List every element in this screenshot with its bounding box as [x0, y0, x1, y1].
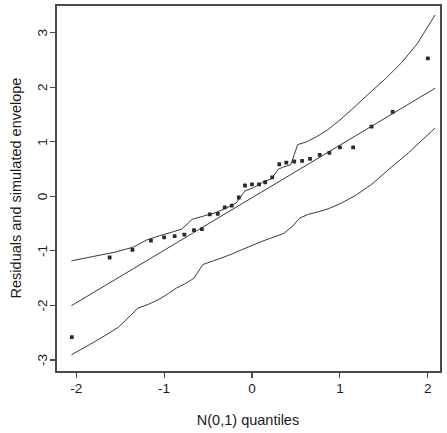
data-point [270, 175, 274, 179]
x-tick-label: -1 [158, 381, 170, 396]
data-point [277, 162, 281, 166]
y-tick-label: -2 [36, 299, 51, 311]
y-tick-label: 0 [36, 193, 51, 201]
data-point [223, 205, 227, 209]
data-point [318, 153, 322, 157]
figure-background [0, 0, 447, 433]
data-point [338, 145, 342, 149]
data-point [108, 256, 112, 260]
data-point [426, 57, 430, 61]
y-tick-label: -3 [36, 354, 51, 366]
x-tick-label: -2 [70, 381, 82, 396]
data-point [300, 159, 304, 163]
data-point [263, 180, 267, 184]
data-point [284, 161, 288, 165]
x-tick-label: 2 [424, 381, 432, 396]
data-point [250, 183, 254, 187]
y-tick-label: 3 [36, 29, 51, 37]
x-tick-label: 0 [248, 381, 256, 396]
data-point [192, 228, 196, 232]
data-point [327, 151, 331, 155]
data-point [391, 110, 395, 114]
y-axis-title: Residuals and simulated envelope [8, 78, 24, 299]
qq-plot-figure: -3-2-10123 -2-1012 N(0,1) quantiles Resi… [0, 0, 447, 433]
data-point [257, 183, 261, 187]
x-axis-title: N(0,1) quantiles [197, 412, 299, 428]
data-point [351, 145, 355, 149]
data-point [292, 160, 296, 164]
data-point [370, 125, 374, 129]
data-point [243, 184, 247, 188]
y-tick-label: 2 [36, 84, 51, 92]
data-point [200, 227, 204, 231]
y-tick-label: 1 [36, 138, 51, 146]
data-point [162, 235, 166, 239]
data-point [149, 239, 153, 243]
x-tick-label: 1 [336, 381, 344, 396]
data-point [308, 157, 312, 161]
plot-canvas: -3-2-10123 -2-1012 N(0,1) quantiles Resi… [0, 0, 447, 433]
y-tick-label: -1 [36, 245, 51, 257]
data-point [237, 196, 241, 200]
data-point [173, 234, 177, 238]
data-point [208, 213, 212, 217]
data-point [131, 248, 135, 252]
data-point [70, 335, 74, 339]
data-point [230, 204, 234, 208]
data-point [216, 212, 220, 216]
data-point [182, 233, 186, 237]
